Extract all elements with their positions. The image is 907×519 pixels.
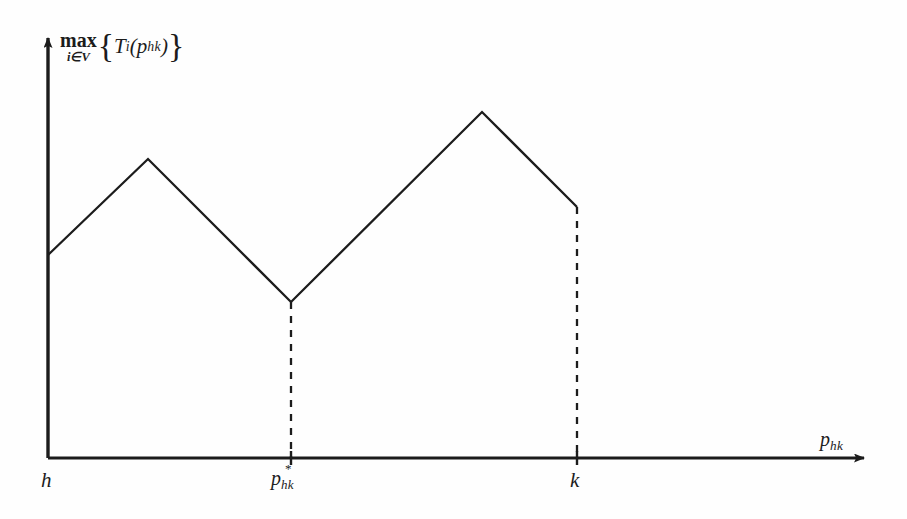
plot-canvas — [0, 0, 907, 519]
objective-curve — [48, 112, 577, 302]
x-tick-label-k-text: k — [570, 468, 579, 492]
x-tick-label-k: k — [570, 470, 579, 491]
x-axis-label: phk — [820, 429, 843, 452]
brace-open: { — [98, 32, 114, 60]
p-star-base: p — [271, 467, 281, 489]
p-star-subscript: hk — [281, 477, 294, 492]
x-tick-label-p-star-hk: p*hk — [271, 468, 294, 491]
paren-open: ( — [130, 36, 137, 57]
max-operator: max i∈V — [60, 30, 97, 64]
y-axis-label: max i∈V { Ti(phk) } — [60, 30, 184, 64]
p-star-superscript: * — [285, 462, 292, 475]
argument-subscript: hk — [147, 40, 161, 54]
p-star-stack: p*hk — [271, 468, 294, 491]
max-operator-subscript: i∈V — [67, 51, 90, 64]
max-operator-text: max — [60, 30, 97, 50]
brace-close: } — [168, 32, 184, 60]
paren-close: ) — [161, 36, 168, 57]
figure-container: max i∈V { Ti(phk) } h p*hk k phk — [0, 0, 907, 519]
argument-base: p — [137, 36, 148, 57]
x-tick-label-h: h — [41, 470, 52, 491]
x-axis-label-subscript: hk — [830, 438, 843, 453]
x-tick-label-h-text: h — [41, 468, 52, 492]
function-name: T — [114, 36, 126, 57]
x-axis-label-base: p — [820, 428, 830, 450]
